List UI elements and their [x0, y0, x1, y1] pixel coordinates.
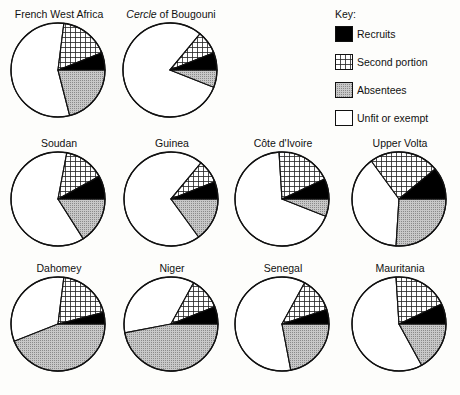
pie-title-text: Senegal [264, 262, 303, 274]
pie-title-text: Côte d'Ivoire [254, 137, 313, 149]
legend-label: Recruits [357, 28, 396, 40]
pie-chart [351, 151, 447, 247]
pie-title: Upper Volta [345, 137, 455, 149]
pie-chart [234, 276, 330, 372]
legend-label: Unfit or exempt [357, 112, 428, 124]
pie-title-text: French West Africa [15, 8, 104, 20]
legend-label: Second portion [357, 56, 428, 68]
legend-title: Key: [335, 8, 356, 20]
dotted-swatch-icon [335, 82, 353, 98]
pie-chart [351, 276, 447, 372]
pie-title: Soudan [4, 137, 114, 149]
recruits-swatch-icon [335, 26, 353, 42]
pie-title: French West Africa [4, 8, 114, 20]
pie-title-text: Niger [159, 262, 184, 274]
pie-chart [234, 151, 330, 247]
blank-swatch-icon [335, 110, 353, 126]
grid-swatch-icon [335, 54, 353, 70]
pie-title-text: Upper Volta [373, 137, 428, 149]
pie-title: Mauritania [345, 262, 455, 274]
pie-title-text: Soudan [41, 137, 77, 149]
pie-title-text: Dahomey [37, 262, 82, 274]
pie-chart [122, 22, 218, 118]
pie-title-text: Guinea [155, 137, 189, 149]
pie-title: Senegal [228, 262, 338, 274]
pie-chart [10, 22, 106, 118]
pie-chart [123, 276, 219, 372]
pie-chart [10, 276, 106, 372]
pie-title: Dahomey [4, 262, 114, 274]
legend-label: Absentees [357, 84, 407, 96]
pie-title: Guinea [117, 137, 227, 149]
pie-chart [10, 151, 106, 247]
pie-title-text: of Bougouni [157, 8, 216, 20]
pie-title: Côte d'Ivoire [228, 137, 338, 149]
pie-chart [123, 151, 219, 247]
pie-title: Cercle of Bougouni [116, 8, 226, 20]
pie-title-text: Mauritania [375, 262, 424, 274]
pie-title-italic: Cercle [126, 8, 156, 20]
pie-title: Niger [117, 262, 227, 274]
